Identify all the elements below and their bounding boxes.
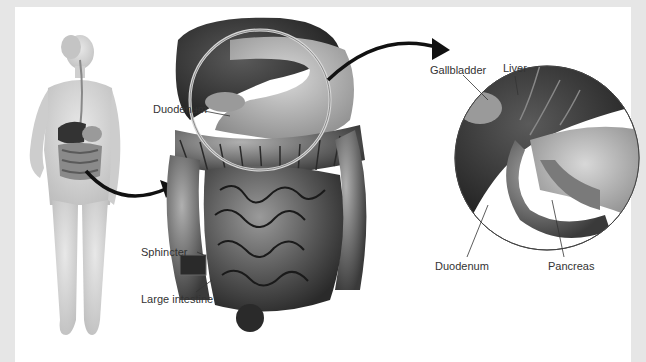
label-gallbladder: Gallbladder — [430, 64, 486, 76]
anatomy-illustration — [0, 0, 646, 362]
label-liver: Liver — [503, 62, 527, 74]
label-sphincter: Sphincter — [141, 246, 187, 258]
abdominal-organs-illustration — [167, 18, 367, 332]
detail-circle-illustration — [455, 60, 640, 250]
human-figure — [30, 35, 121, 335]
label-duodenum: Duodenum — [153, 103, 207, 115]
label-pancreas: Pancreas — [548, 260, 594, 272]
arrowhead-icon — [432, 38, 450, 60]
label-duodenum-detail: Duodenum — [435, 260, 489, 272]
label-large-intestine: Large intestine — [141, 293, 213, 305]
